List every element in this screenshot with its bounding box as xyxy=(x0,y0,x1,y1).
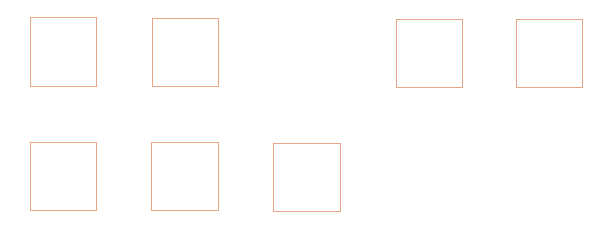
empty-square-box xyxy=(516,19,583,88)
empty-square-box xyxy=(30,17,97,87)
empty-square-box xyxy=(152,18,219,87)
empty-square-box xyxy=(30,142,97,211)
empty-square-box xyxy=(151,142,219,211)
empty-square-box xyxy=(273,143,341,212)
empty-square-box xyxy=(396,19,463,88)
